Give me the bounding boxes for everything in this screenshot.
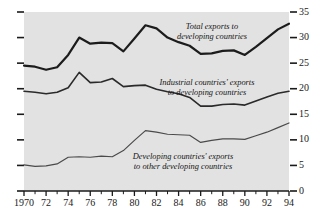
- y-axis-tick-label: 10: [299, 134, 309, 144]
- series-label-developing-countries-exports: Developing countries' exports to other d…: [113, 152, 253, 171]
- x-axis-tick-label: 94: [269, 198, 309, 208]
- y-axis-ticks-right: [290, 12, 297, 191]
- series-label-line-2: developing countries: [142, 32, 282, 42]
- series-label-line-2: to developing countries: [137, 88, 277, 98]
- x-axis-ticks: [24, 191, 289, 196]
- y-axis-tick-label: 35: [299, 7, 309, 17]
- series-label-total-exports: Total exports to developing countries: [142, 22, 282, 41]
- y-axis-tick-label: 0: [299, 186, 304, 196]
- series-label-line-1: Total exports to: [142, 22, 282, 32]
- series-label-line-2: to other developing countries: [113, 162, 253, 172]
- y-axis-tick-label: 20: [299, 83, 309, 93]
- chart-page: 05101520253035 1970727476788082848688909…: [0, 0, 322, 218]
- y-axis-tick-label: 15: [299, 109, 309, 119]
- y-axis-tick-label: 30: [299, 32, 309, 42]
- series-label-line-1: Industrial countries' exports: [137, 78, 277, 88]
- series-label-industrial-countries-exports: Industrial countries' exports to develop…: [137, 78, 277, 97]
- y-axis-ticks-left: [17, 12, 24, 191]
- y-axis-tick-label: 5: [299, 160, 304, 170]
- y-axis-tick-label: 25: [299, 58, 309, 68]
- series-label-line-1: Developing countries' exports: [113, 152, 253, 162]
